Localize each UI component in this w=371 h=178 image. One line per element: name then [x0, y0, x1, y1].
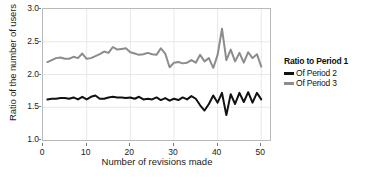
x-axis-tick-labels: 01020304050	[0, 143, 371, 157]
legend-title: Ratio to Period 1	[284, 56, 370, 66]
legend-item-label: Of Period 2	[296, 68, 337, 78]
chart-figure: Ratio of the number of users 1.01.52.02.…	[0, 0, 371, 178]
legend-item-label: Of Period 3	[296, 78, 337, 88]
x-tick-mark	[129, 143, 130, 146]
x-tick-mark	[217, 143, 218, 146]
y-tick-mark	[38, 139, 41, 140]
y-tick-mark	[38, 74, 41, 75]
y-tick-mark	[38, 8, 41, 9]
data-line-of-period-2	[47, 92, 261, 115]
x-tick-mark	[86, 143, 87, 146]
x-axis-title: Number of revisions made	[42, 156, 272, 167]
x-tick-mark	[42, 143, 43, 146]
legend-item[interactable]: Of Period 3	[284, 78, 370, 88]
legend-color-swatch	[284, 82, 294, 85]
legend-color-swatch	[284, 72, 294, 75]
y-tick-mark	[38, 106, 41, 107]
legend-item[interactable]: Of Period 2	[284, 68, 370, 78]
x-tick-mark	[260, 143, 261, 146]
y-tick-mark	[38, 41, 41, 42]
plot-svg	[43, 9, 270, 140]
legend-entries: Of Period 2Of Period 3	[284, 68, 370, 88]
chart-legend: Ratio to Period 1 Of Period 2Of Period 3	[284, 56, 370, 88]
plot-area	[42, 8, 271, 141]
x-tick-mark	[173, 143, 174, 146]
data-line-of-period-3	[47, 29, 261, 68]
